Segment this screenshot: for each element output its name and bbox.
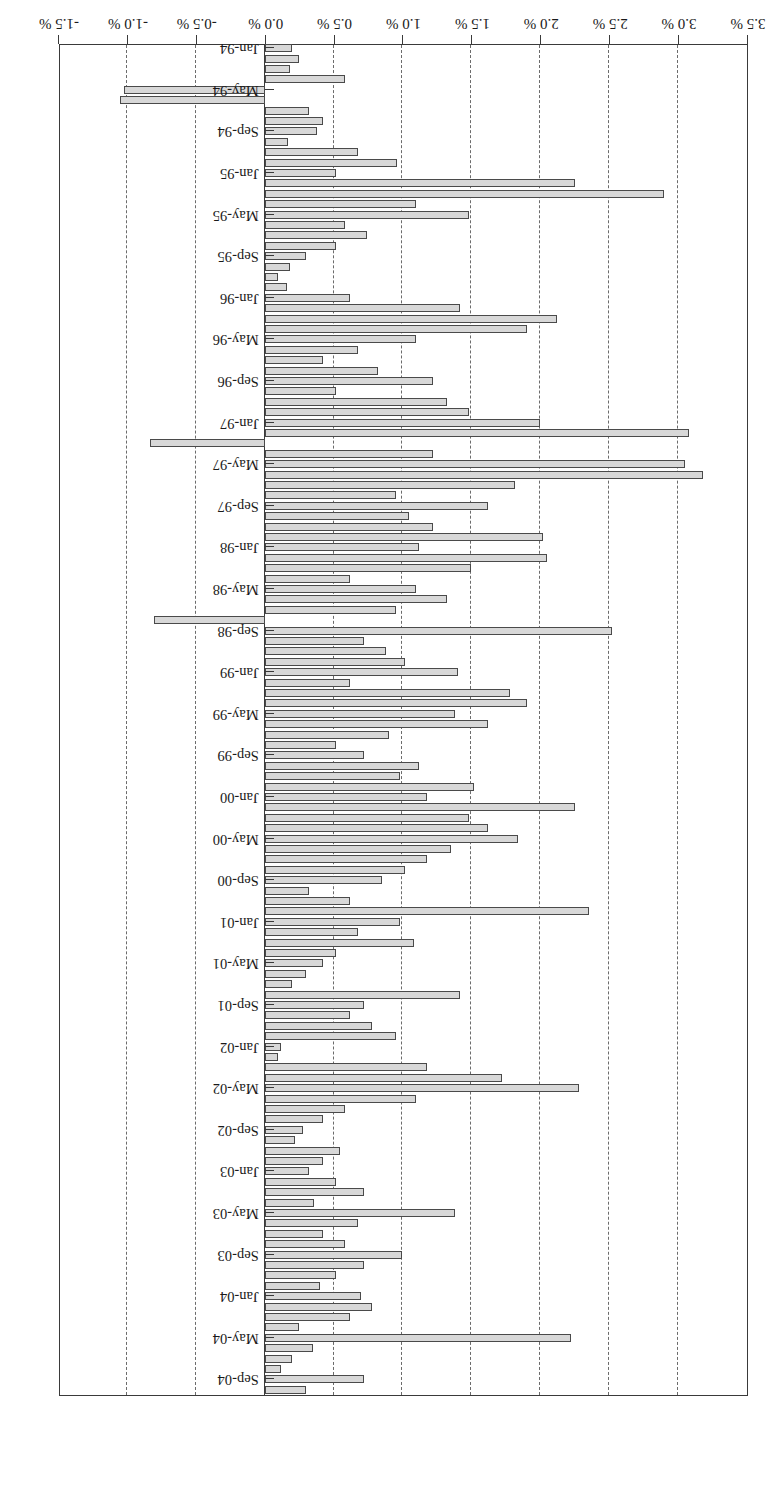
- value-tick: [127, 35, 128, 44]
- bar: [265, 575, 350, 583]
- category-tick-label: May-95: [213, 206, 259, 223]
- bar: [265, 689, 510, 697]
- category-tick-label: Sep-98: [218, 622, 259, 639]
- bar: [265, 1095, 417, 1103]
- category-tick-label: Sep-02: [218, 1121, 259, 1138]
- bar: [265, 627, 612, 635]
- bar: [265, 1001, 364, 1009]
- value-axis: 3.5 %3.0 %2.5 %2.0 %1.5 %1.0 %0.5 %0.0 %…: [59, 0, 748, 44]
- bar: [265, 148, 359, 156]
- category-tick: [265, 1129, 274, 1130]
- bar: [265, 835, 519, 843]
- bar: [265, 356, 323, 364]
- bar: [265, 1230, 323, 1238]
- bar: [265, 211, 469, 219]
- category-tick-label: Sep-01: [218, 997, 259, 1014]
- bar: [265, 907, 589, 915]
- bar: [265, 252, 306, 260]
- category-tick-label: Sep-03: [218, 1246, 259, 1263]
- bar: [265, 533, 543, 541]
- value-tick: [265, 35, 266, 44]
- bar: [265, 1199, 315, 1207]
- bar: [265, 668, 458, 676]
- bar: [265, 939, 414, 947]
- bar: [265, 845, 451, 853]
- bar: [265, 783, 474, 791]
- bar: [265, 1147, 341, 1155]
- bar: [265, 325, 527, 333]
- category-tick-label: Sep-94: [218, 123, 259, 140]
- bar: [265, 887, 309, 895]
- bar: [265, 710, 455, 718]
- value-tick-label: 3.0 %: [662, 15, 697, 32]
- bar: [265, 1334, 571, 1342]
- bar: [265, 897, 350, 905]
- bar: [265, 231, 367, 239]
- category-tick: [265, 214, 274, 215]
- bar: [265, 1043, 282, 1051]
- category-tick-label: May-99: [213, 705, 259, 722]
- bar: [265, 741, 337, 749]
- category-tick-label: Sep-99: [218, 747, 259, 764]
- value-tick-label: -0.5 %: [177, 15, 217, 32]
- bar: [265, 1157, 323, 1165]
- plot-area: Jan-94May-94Sep-94Jan-95May-95Sep-95Jan-…: [59, 44, 748, 1396]
- category-tick-label: Jan-01: [220, 913, 259, 930]
- bar: [265, 824, 488, 832]
- bar: [265, 1136, 295, 1144]
- bar: [265, 1251, 403, 1259]
- value-tick: [540, 35, 541, 44]
- bar: [265, 970, 306, 978]
- bar: [265, 450, 433, 458]
- bar: [265, 679, 350, 687]
- category-tick-label: May-97: [213, 456, 259, 473]
- bar: [265, 1188, 364, 1196]
- category-tick: [265, 89, 274, 90]
- category-tick: [265, 630, 274, 631]
- bar: [265, 1167, 309, 1175]
- category-tick-label: May-03: [213, 1205, 259, 1222]
- category-tick: [265, 1295, 274, 1296]
- category-tick: [265, 338, 274, 339]
- bar: [265, 606, 396, 614]
- bar: [265, 419, 541, 427]
- value-tick: [58, 35, 59, 44]
- category-tick: [265, 588, 274, 589]
- category-tick: [265, 1378, 274, 1379]
- bar: [265, 1344, 313, 1352]
- bar: [265, 980, 293, 988]
- category-tick-label: May-98: [213, 581, 259, 598]
- bar: [265, 1032, 396, 1040]
- bar: [265, 315, 557, 323]
- bar: [265, 75, 345, 83]
- category-tick-label: Jan-04: [220, 1288, 259, 1305]
- value-tick-label: 1.5 %: [455, 15, 490, 32]
- bar: [265, 460, 685, 468]
- bar: [265, 55, 299, 63]
- bar: [265, 169, 337, 177]
- category-tick-label: Jan-96: [220, 289, 259, 306]
- bar: [265, 543, 419, 551]
- bar: [265, 44, 293, 52]
- category-tick-label: Jan-98: [220, 539, 259, 556]
- bar: [265, 1282, 320, 1290]
- bar: [265, 991, 461, 999]
- bar: [265, 1063, 428, 1071]
- value-tick-label: 0.0 %: [248, 15, 283, 32]
- bar: [265, 928, 359, 936]
- category-tick: [265, 172, 274, 173]
- bar: [265, 918, 400, 926]
- bar: [265, 814, 469, 822]
- category-tick-label: Jan-02: [220, 1038, 259, 1055]
- category-tick-label: May-01: [213, 955, 259, 972]
- category-tick: [265, 463, 274, 464]
- bar: [265, 502, 488, 510]
- bar: [265, 720, 488, 728]
- bar: [265, 294, 350, 302]
- bar: [265, 263, 290, 271]
- bar: [265, 190, 665, 198]
- value-tick: [334, 35, 335, 44]
- category-tick-label: Jan-99: [220, 664, 259, 681]
- bar: [265, 387, 337, 395]
- category-tick: [265, 130, 274, 131]
